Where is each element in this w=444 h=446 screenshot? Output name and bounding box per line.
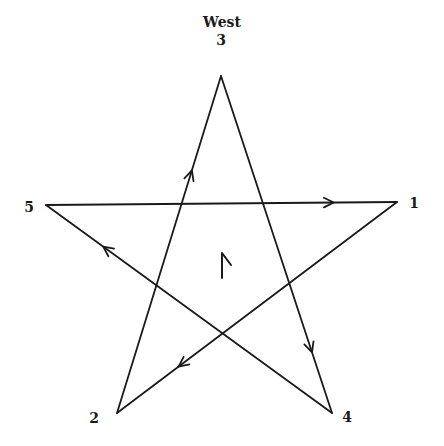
edge-4-to-5	[46, 205, 332, 413]
vertex-label-3: 3	[216, 32, 226, 48]
edge-2-to-3	[117, 76, 221, 413]
pentagram-edges	[46, 76, 397, 413]
direction-label-west: West	[202, 14, 241, 30]
edge-3-to-4	[221, 76, 332, 413]
vertex-label-4: 4	[342, 409, 352, 425]
pentagram-diagram: West 12345	[0, 0, 444, 446]
rune-icon	[222, 253, 231, 278]
vertex-label-5: 5	[24, 199, 34, 215]
vertex-label-2: 2	[89, 410, 99, 426]
vertex-label-1: 1	[409, 195, 419, 211]
vertex-labels: 12345	[24, 32, 419, 426]
edge-1-to-2	[117, 202, 397, 413]
edge-5-to-1	[46, 202, 397, 205]
